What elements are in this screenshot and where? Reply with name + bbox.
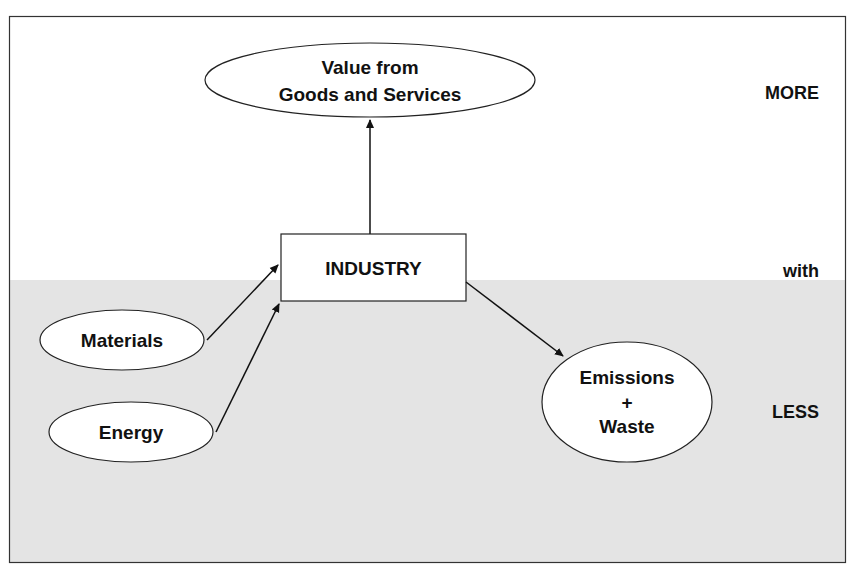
value-node-line2: Goods and Services [279, 84, 462, 105]
less-label: LESS [772, 402, 819, 422]
emissions-waste-node: Emissions + Waste [542, 342, 712, 462]
value-node: Value from Goods and Services [205, 43, 535, 117]
more-label: MORE [765, 83, 819, 103]
emissions-label: Emissions [579, 367, 674, 388]
value-node-line1: Value from [321, 57, 418, 78]
materials-node: Materials [40, 310, 204, 370]
waste-label: Waste [599, 416, 654, 437]
energy-label: Energy [99, 422, 164, 443]
industry-flow-diagram: Value from Goods and Services INDUSTRY M… [0, 0, 863, 586]
plus-label: + [621, 392, 632, 413]
energy-node: Energy [49, 402, 213, 462]
materials-label: Materials [81, 330, 163, 351]
industry-label: INDUSTRY [325, 258, 422, 279]
with-label: with [782, 261, 819, 281]
industry-node: INDUSTRY [281, 234, 466, 301]
